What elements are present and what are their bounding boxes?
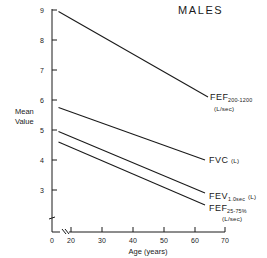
chart-title: MALES [178,4,223,16]
series-label-fvc: FVC (L) [209,155,239,165]
series-label-main: FEF [209,203,228,213]
series-label-unit: (L/sec) [214,105,234,112]
series-label-main: FEF [210,92,229,102]
x-tick-label: 70 [221,237,229,244]
x-axis-origin-elbow [52,223,60,232]
x-origin-label: 0 [50,237,54,244]
series-label-unit: (L) [231,157,239,164]
series-label-unit: (L) [248,193,256,200]
series-line-fvc [59,108,206,161]
series-line-fev1 [59,132,206,194]
series-label-main: FEV [209,191,228,201]
x-tick-label: 50 [160,237,168,244]
y-ticks: 9 8 7 6 5 4 3 [40,7,57,194]
series-line-fef200-1200 [59,12,209,98]
x-axis [52,223,225,234]
series-label-sub: 25-75% [227,208,247,214]
chart-container: MALES Mean Value 9 8 7 6 5 4 3 [0,0,267,258]
series-label-fef25-75: FEF 25-75% (L/sec) [209,203,247,222]
y-tick-label: 3 [40,187,44,194]
series-label-sub: 1.0sec [228,196,245,202]
y-tick-label: 4 [40,157,44,164]
x-tick-label: 30 [98,237,106,244]
series-line-fef25-75 [59,142,206,205]
series-label-fef200-1200: FEF 200-1200 (L/sec) [210,92,252,112]
x-tick-label: 40 [129,237,137,244]
series-label-unit: (L/sec) [222,215,242,222]
x-ticks: 20 30 40 50 60 70 0 [50,227,229,244]
y-axis-label-line1: Mean [15,107,34,116]
line-chart-svg: MALES Mean Value 9 8 7 6 5 4 3 [0,0,267,258]
y-tick-label: 9 [40,7,44,14]
series-label-main: FVC [209,155,229,165]
y-tick-label: 5 [40,127,44,134]
x-tick-label: 60 [191,237,199,244]
x-tick-label: 20 [67,237,75,244]
y-tick-label: 8 [40,37,44,44]
y-tick-label: 6 [40,97,44,104]
y-axis-label-line2: Value [15,117,34,126]
x-axis-label: Age (years) [129,247,168,256]
y-tick-label: 7 [40,67,44,74]
series-label-fev1: FEV 1.0sec (L) [209,191,256,202]
series-label-sub: 200-1200 [228,97,252,103]
